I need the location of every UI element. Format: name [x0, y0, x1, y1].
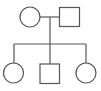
daughter-1-symbol [4, 63, 24, 83]
father-symbol [60, 8, 80, 27]
mother-symbol [20, 7, 40, 27]
pedigree-diagram [0, 0, 101, 91]
daughter-2-symbol [76, 63, 96, 83]
son-symbol [40, 64, 60, 84]
